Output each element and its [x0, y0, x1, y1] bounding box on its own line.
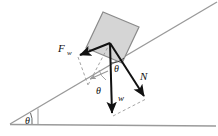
ground-line — [10, 125, 216, 127]
diagram-canvas: F w N w θ θ θ — [0, 0, 218, 136]
friction-force-label: F — [57, 42, 65, 54]
normal-force-label: N — [139, 70, 148, 82]
weight-label: w — [118, 93, 124, 103]
block-body — [86, 12, 139, 63]
incline-base-angle-label: θ — [25, 115, 30, 126]
weight-normal-angle-label: θ — [114, 63, 119, 74]
incline-base-angle-arc — [31, 113, 33, 124]
free-body-diagram-figure: F w N w θ θ θ — [0, 0, 218, 136]
weight-slope-angle-label: θ — [96, 85, 101, 96]
friction-force-subscript-label: w — [67, 49, 72, 57]
